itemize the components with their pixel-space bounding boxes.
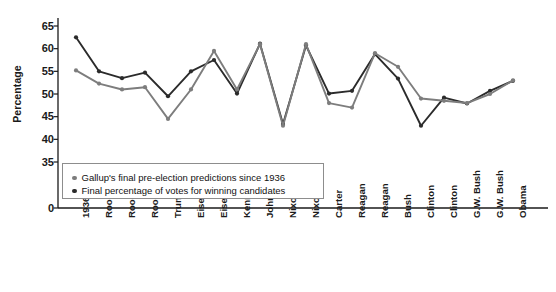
- legend-marker-gallup-icon: [72, 176, 77, 181]
- data-point: [350, 89, 354, 93]
- data-point: [143, 71, 147, 75]
- x-tick-label: Clinton: [425, 185, 436, 218]
- x-tick-label: G.W. Bush: [471, 170, 482, 218]
- y-axis-ticks: [54, 26, 59, 208]
- series-gallup: [74, 42, 515, 128]
- data-point: [235, 87, 239, 91]
- data-point: [419, 96, 423, 100]
- data-point: [327, 101, 331, 105]
- y-axis-tick-labels: 035404550556065: [22, 0, 54, 292]
- data-point: [143, 85, 147, 89]
- legend-label-actual: Final percentage of votes for winning ca…: [82, 185, 286, 196]
- election-polling-line-chart: Percentage 035404550556065 1936Roosevelt…: [0, 0, 556, 292]
- x-tick-label: Carter: [333, 190, 344, 218]
- data-point: [465, 101, 469, 105]
- data-point: [258, 42, 262, 46]
- data-point: [189, 87, 193, 91]
- data-point: [97, 81, 101, 85]
- data-point: [212, 49, 216, 53]
- y-tick-60: 60: [28, 43, 54, 54]
- x-tick-label: Clinton: [448, 185, 459, 218]
- chart-legend: Gallup's final pre-election predictions …: [62, 163, 324, 199]
- data-point: [120, 76, 124, 80]
- data-point: [327, 91, 331, 95]
- y-tick-0: 0: [28, 203, 54, 214]
- y-tick-65: 65: [28, 21, 54, 32]
- data-point: [511, 78, 515, 82]
- data-point: [74, 35, 78, 39]
- legend-marker-actual-icon: [72, 189, 77, 194]
- y-tick-55: 55: [28, 66, 54, 77]
- legend-item-actual: Final percentage of votes for winning ca…: [72, 186, 285, 196]
- data-point: [396, 76, 400, 80]
- plot-area: [0, 0, 556, 292]
- x-tick-label: Reagan: [379, 183, 390, 218]
- y-tick-45: 45: [28, 111, 54, 122]
- data-point: [235, 91, 239, 95]
- data-point: [419, 124, 423, 128]
- y-tick-40: 40: [28, 134, 54, 145]
- data-point: [166, 94, 170, 98]
- y-tick-50: 50: [28, 89, 54, 100]
- x-tick-label: Bush: [402, 194, 413, 218]
- data-point: [212, 58, 216, 62]
- legend-item-gallup: Gallup's final pre-election predictions …: [72, 173, 285, 183]
- data-point: [488, 92, 492, 96]
- data-point: [166, 117, 170, 121]
- x-tick-label: Reagan: [356, 183, 367, 218]
- data-point: [97, 69, 101, 73]
- x-tick-label: G.W. Bush: [494, 170, 505, 218]
- data-point: [120, 87, 124, 91]
- y-tick-35: 35: [28, 157, 54, 168]
- data-point: [396, 65, 400, 69]
- data-point: [281, 124, 285, 128]
- legend-label-gallup: Gallup's final pre-election predictions …: [82, 172, 286, 183]
- data-point: [373, 51, 377, 55]
- x-tick-label: 1936: [80, 197, 91, 218]
- data-point: [442, 99, 446, 103]
- data-point: [189, 69, 193, 73]
- data-point: [350, 106, 354, 110]
- data-point: [304, 42, 308, 46]
- x-tick-label: Obama: [517, 185, 528, 218]
- data-point: [74, 68, 78, 72]
